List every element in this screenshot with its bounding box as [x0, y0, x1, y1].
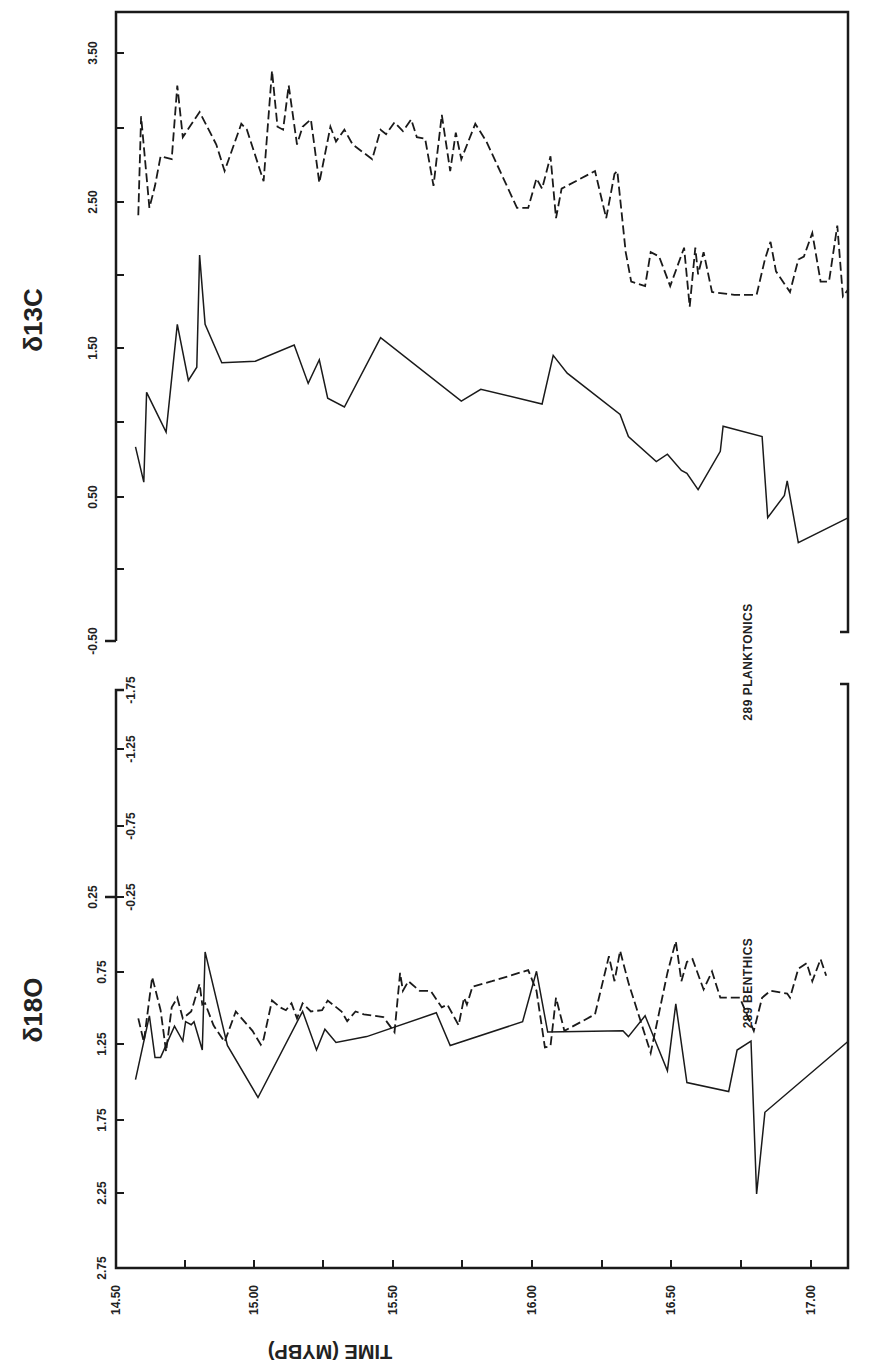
bottom-y-tick-labels-benthic: 0.25 0.75 1.25 1.75 2.25 2.75	[86, 885, 109, 1280]
tick-label: 0.25	[86, 885, 100, 909]
tick-label: 3.50	[86, 41, 100, 65]
d13c-planktonic-line	[138, 71, 848, 307]
bottom-y-tick-labels-planktonic: -1.75 -1.25 -0.75 -0.25	[124, 676, 138, 911]
tick-label: 0.50	[86, 485, 100, 509]
tick-label: -0.50	[86, 627, 100, 655]
tick-label: 15.00	[247, 1285, 261, 1315]
tick-label: -0.25	[124, 883, 138, 911]
bottom-panel-title: δ18O	[18, 978, 48, 1043]
bottom-panel-frame	[105, 684, 848, 1268]
d13c-benthic-line	[136, 255, 849, 543]
tick-label: 14.50	[109, 1285, 123, 1315]
tick-label: -0.75	[124, 812, 138, 840]
d18o-planktonic-line	[138, 941, 826, 1053]
tick-label: 2.75	[95, 1256, 109, 1280]
tick-label: -1.75	[124, 676, 138, 704]
tick-label: 1.50	[86, 336, 100, 360]
tick-label: 16.00	[525, 1285, 539, 1315]
tick-label: 2.50	[86, 190, 100, 214]
x-tick-labels: 14.50 15.00 15.50 16.00 16.50 17.00	[109, 1285, 818, 1315]
tick-label: -1.25	[124, 735, 138, 763]
tick-label: 0.75	[95, 960, 109, 984]
tick-label: 16.50	[664, 1285, 678, 1315]
label-planktonics: 289 PLANKTONICS	[741, 603, 755, 720]
top-panel-title: δ13C	[18, 288, 48, 352]
x-axis-title: TIME (MYBP)	[268, 1341, 392, 1363]
tick-label: 2.25	[95, 1181, 109, 1205]
top-panel-frame	[105, 12, 848, 641]
label-benthics: 289 BENTHICS	[741, 938, 755, 1029]
tick-label: 15.50	[386, 1285, 400, 1315]
tick-label: 1.75	[95, 1108, 109, 1132]
tick-label: 1.25	[95, 1032, 109, 1056]
isotope-chart: 3.50 2.50 1.50 0.50 -0.50 δ13C -1.75 -1.…	[0, 0, 870, 1365]
tick-label: 17.00	[804, 1285, 818, 1315]
top-y-tick-labels: 3.50 2.50 1.50 0.50 -0.50	[86, 41, 100, 655]
